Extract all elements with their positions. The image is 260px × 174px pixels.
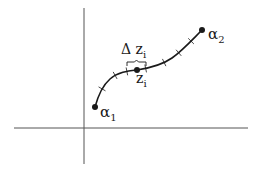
alpha1-point: [92, 104, 98, 110]
contour-diagram: α1 α2 Δ zi zi: [0, 0, 260, 174]
delta-zi-label: Δ zi: [121, 41, 146, 60]
diagram-canvas: α1 α2 Δ zi zi: [0, 0, 260, 174]
delta-zi-brace: [127, 60, 146, 66]
alpha2-label: α2: [208, 25, 225, 45]
alpha1-label: α1: [100, 103, 117, 123]
contour-curve: [95, 30, 202, 107]
alpha2-point: [199, 27, 205, 33]
zi-label: zi: [136, 70, 147, 89]
